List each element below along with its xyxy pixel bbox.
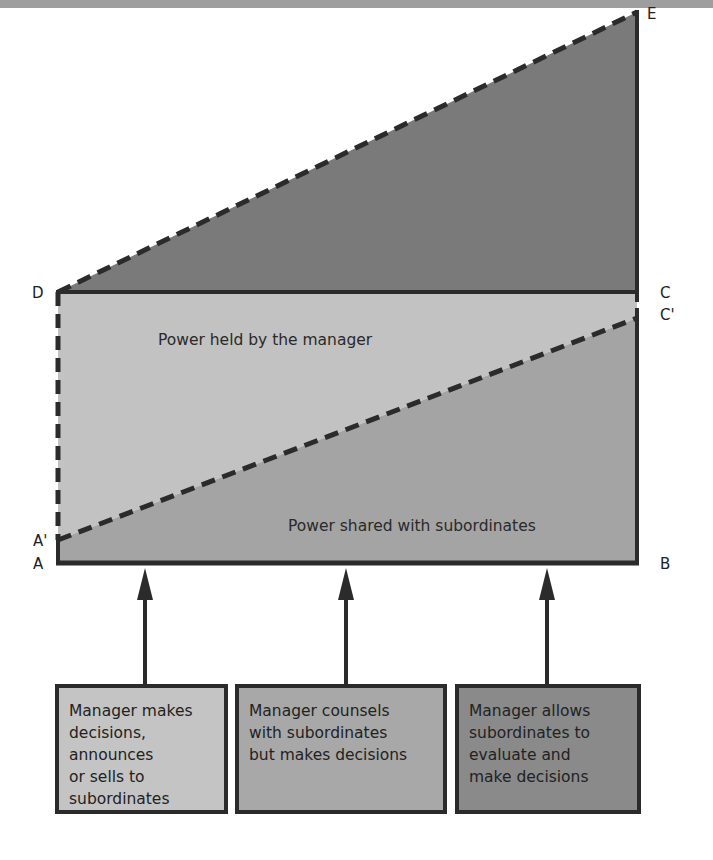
box-3-line-2: subordinates to — [469, 722, 629, 744]
box-1-line-5: subordinates — [69, 788, 216, 810]
vertex-label-a-prime: A' — [33, 532, 47, 550]
box-1-line-2: decisions, — [69, 722, 216, 744]
box-3-line-1: Manager allows — [469, 700, 629, 722]
vertex-label-e: E — [647, 5, 656, 23]
box-3-line-4: make decisions — [469, 766, 629, 788]
arrow-3 — [539, 568, 555, 686]
box-1-line-3: announces — [69, 744, 216, 766]
vertex-label-c: C — [660, 284, 670, 302]
box-2-line-2: with subordinates — [249, 722, 435, 744]
shared-power-label: Power shared with subordinates — [288, 517, 536, 535]
vertex-label-d: D — [32, 284, 44, 302]
arrow-2 — [338, 568, 354, 686]
box-1-line-1: Manager makes — [69, 700, 216, 722]
style-box-tells-sells: Manager makes decisions, announces or se… — [55, 684, 228, 814]
vertex-label-b: B — [660, 555, 670, 573]
style-box-delegates: Manager allows subordinates to evaluate … — [455, 684, 641, 814]
arrow-1 — [137, 568, 153, 686]
box-3-line-3: evaluate and — [469, 744, 629, 766]
vertex-label-c-prime: C' — [660, 306, 675, 324]
box-2-line-3: but makes decisions — [249, 744, 435, 766]
style-box-consults: Manager counsels with subordinates but m… — [235, 684, 447, 814]
box-2-line-1: Manager counsels — [249, 700, 435, 722]
box-1-line-4: or sells to — [69, 766, 216, 788]
manager-power-label: Power held by the manager — [158, 331, 372, 349]
vertex-label-a: A — [33, 555, 43, 573]
